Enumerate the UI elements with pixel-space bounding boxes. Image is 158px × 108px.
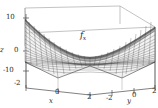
- plot-canvas: [0, 0, 158, 108]
- y-axis-line: [90, 88, 155, 95]
- surface-plot-figure: 10 0 -10 z -2 0 2 x -2 0 2 y fx: [0, 0, 158, 108]
- drop-lines: [58, 78, 122, 90]
